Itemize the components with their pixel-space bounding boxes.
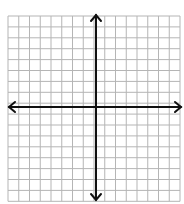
coordinate-grid (0, 0, 184, 204)
grid-lines (8, 16, 180, 201)
axes (9, 15, 181, 200)
